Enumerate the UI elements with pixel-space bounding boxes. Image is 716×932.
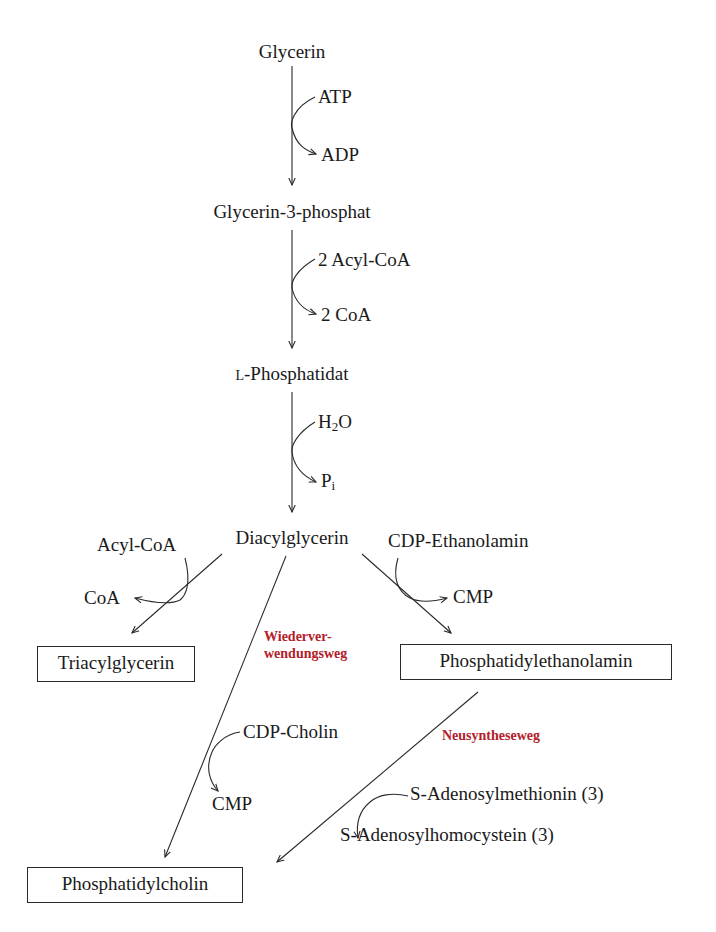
l-prefix: L <box>235 368 244 383</box>
curve-cdpe-cmp <box>396 558 447 601</box>
curve-cdpc-cmp <box>209 732 240 791</box>
arrow-dag-to-tag <box>132 554 222 633</box>
pathway-label-salvage-line1: Wiederver- <box>264 628 332 645</box>
node-phosphatidylcholin: Phosphatidylcholin <box>27 867 243 903</box>
cofactor-cdp-cholin: CDP-Cholin <box>243 721 338 743</box>
pathway-arrows <box>0 0 716 932</box>
cofactor-s-adenosylmethionin: S-Adenosylmethionin (3) <box>410 783 604 805</box>
cofactor-cdp-ethanolamin: CDP-Ethanolamin <box>388 530 528 552</box>
pi-p: P <box>321 470 332 491</box>
h2o-h: H <box>318 411 332 432</box>
curve-atp-adp <box>291 97 316 154</box>
curve-acylcoa-coa-left <box>135 558 188 603</box>
cofactor-coa: CoA <box>84 587 120 609</box>
cofactor-atp: ATP <box>318 86 352 108</box>
node-l-phosphatidat: L-Phosphatidat <box>235 363 348 387</box>
node-glycerin: Glycerin <box>259 41 325 63</box>
cofactor-2-acyl-coa: 2 Acyl-CoA <box>318 249 410 271</box>
cofactor-adp: ADP <box>321 144 359 166</box>
pathway-label-salvage-line2: wendungsweg <box>264 645 347 662</box>
cofactor-h2o: H2O <box>318 411 352 433</box>
cofactor-2-coa: 2 CoA <box>321 304 371 326</box>
curve-h2o-pi <box>292 422 316 482</box>
h2o-o: O <box>338 411 352 432</box>
node-triacylglycerin: Triacylglycerin <box>37 646 195 682</box>
cofactor-cmp-right: CMP <box>453 586 493 608</box>
cofactor-cmp-left: CMP <box>212 793 252 815</box>
phosphatidat-label: -Phosphatidat <box>244 363 349 384</box>
cofactor-acyl-coa: Acyl-CoA <box>97 534 176 556</box>
node-glycerin-3-phosphat: Glycerin-3-phosphat <box>213 201 370 223</box>
pathway-label-denovo: Neusyntheseweg <box>442 727 540 744</box>
cofactor-pi: Pi <box>321 470 335 492</box>
node-diacylglycerin: Diacylglycerin <box>236 527 349 549</box>
node-phosphatidylethanolamin: Phosphatidylethanolamin <box>400 644 672 680</box>
arrow-dag-to-pe <box>362 554 451 633</box>
curve-acylcoa-coa <box>292 259 316 314</box>
cofactor-s-adenosylhomocystein: S-Adenosylhomocystein (3) <box>340 824 554 846</box>
pi-sub: i <box>332 478 336 493</box>
